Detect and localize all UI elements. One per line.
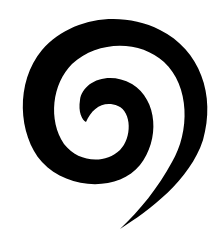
spiral-shape — [23, 19, 208, 229]
spiral-canvas — [0, 0, 216, 241]
spiral-icon — [0, 0, 216, 241]
